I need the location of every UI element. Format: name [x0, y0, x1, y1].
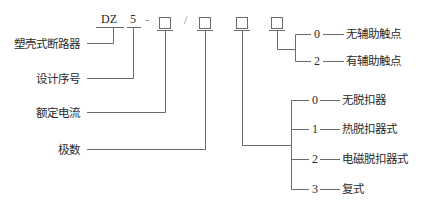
- aux-option-text: 有辅助触点: [346, 54, 401, 68]
- aux-option-text: 无辅助触点: [346, 27, 401, 41]
- label-rated-current: 额定电流: [36, 106, 80, 120]
- label-molded-case-breaker: 塑壳式断路器: [14, 37, 80, 51]
- model-code-diagram: DZ 5 - / 塑壳式断路器 设计序号 额定电流 极数 0 无辅助触点 2 有…: [0, 0, 423, 206]
- release-option-text: 无脱扣器: [342, 93, 386, 107]
- code-series: 5: [130, 12, 136, 26]
- code-prefix: DZ: [101, 12, 117, 26]
- release-option-code: 1: [312, 122, 318, 136]
- release-option-text: 热脱扣器式: [342, 122, 397, 136]
- code-separator-slash: /: [184, 13, 187, 27]
- release-option-code: 2: [312, 152, 318, 166]
- aux-option-code: 2: [314, 54, 320, 68]
- label-poles: 极数: [58, 143, 80, 157]
- release-option-text: 复式: [342, 182, 364, 196]
- release-option-code: 0: [312, 93, 318, 107]
- label-design-serial: 设计序号: [36, 72, 80, 86]
- release-option-text: 电磁脱扣器式: [342, 152, 408, 166]
- code-separator-dash: -: [145, 13, 149, 27]
- release-option-code: 3: [312, 182, 318, 196]
- aux-option-code: 0: [314, 27, 320, 41]
